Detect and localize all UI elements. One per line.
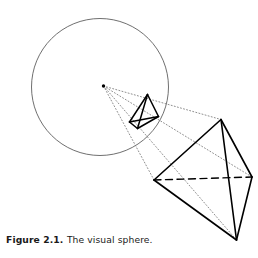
- visual-sphere-outline: [32, 19, 169, 156]
- projection-ray-to-top: [104, 86, 222, 120]
- object-edge-top-right: [221, 120, 252, 178]
- projected-tetrahedron-group: [130, 95, 159, 129]
- projection-rays-group: [104, 86, 253, 240]
- projection-ray-to-right: [104, 86, 253, 177]
- viewpoint-group: [102, 84, 105, 87]
- figure-illustration: [0, 0, 258, 258]
- object-edge-top-bottom: [221, 120, 237, 241]
- projected-edge-top-left: [130, 95, 148, 123]
- projected-edge-top-right: [148, 95, 159, 117]
- figure-caption: Figure 2.1.The visual sphere.: [6, 233, 256, 246]
- object-hidden-edge-left-right: [154, 177, 252, 180]
- figure-caption-text: The visual sphere.: [67, 234, 153, 245]
- object-edge-left-bottom: [154, 180, 237, 240]
- projection-ray-to-bottom: [104, 86, 237, 240]
- visual-sphere-group: [32, 19, 169, 156]
- object-tetrahedron-group: [154, 120, 252, 241]
- figure-caption-label: Figure 2.1.: [6, 234, 63, 245]
- eye-point-marker: [102, 84, 105, 87]
- object-edge-bottom-right: [237, 177, 253, 240]
- figure-page: Figure 2.1.The visual sphere.: [0, 0, 258, 258]
- object-edge-top-left: [154, 120, 221, 181]
- projected-edge-left-bottom: [130, 122, 138, 129]
